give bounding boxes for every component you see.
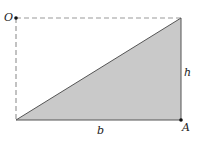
label-o: O [4,11,13,24]
label-h: h [184,66,191,79]
shaded-triangle [16,18,181,120]
point-o [14,16,18,20]
diagram-canvas: O A h b [0,0,197,141]
label-b: b [97,124,104,137]
label-a: A [181,121,190,134]
